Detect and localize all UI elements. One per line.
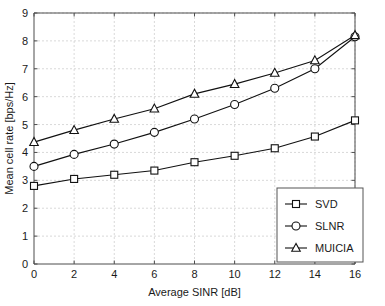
legend-label: SLNR [315,220,344,232]
y-tick-label: 8 [22,35,28,47]
y-tick-label: 0 [22,258,28,270]
data-point-square-icon [31,182,38,189]
data-point-triangle-icon [311,56,320,64]
x-tick-label: 0 [31,268,37,280]
y-axis-title: Mean cell rate [bps/Hz] [3,82,15,195]
data-point-square-icon [352,117,359,124]
data-point-circle-icon [311,65,319,73]
x-tick-label: 12 [269,268,281,280]
data-point-circle-icon [191,115,199,123]
data-point-square-icon [111,171,118,178]
x-tick-label: 2 [71,268,77,280]
x-tick-label: 4 [111,268,117,280]
data-point-circle-icon [150,128,158,136]
legend-label: MUICIA [315,242,354,254]
legend-marker-square-icon [293,201,300,208]
data-point-circle-icon [271,84,279,92]
data-point-square-icon [151,167,158,174]
y-tick-label: 2 [22,202,28,214]
data-point-square-icon [271,145,278,152]
y-tick-label: 3 [22,174,28,186]
data-point-square-icon [311,133,318,140]
y-tick-label: 9 [22,7,28,19]
chart-figure: 0246810121416 0123456789 Average SINR [d… [0,0,385,306]
y-tick-label: 6 [22,91,28,103]
x-tick-label: 6 [151,268,157,280]
data-point-circle-icon [231,100,239,108]
y-tick-label: 5 [22,119,28,131]
x-tick-label: 16 [349,268,361,280]
data-point-square-icon [71,175,78,182]
chart-legend: SVDSLNRMUICIA [277,188,363,262]
series-muicia [30,31,360,146]
line-chart: 0246810121416 0123456789 Average SINR [d… [0,0,385,306]
y-tick-labels: 0123456789 [22,7,28,270]
x-tick-label: 10 [229,268,241,280]
x-axis-title: Average SINR [dB] [148,286,241,298]
y-tick-label: 7 [22,63,28,75]
data-point-circle-icon [70,150,78,158]
y-tick-label: 1 [22,230,28,242]
y-tick-label: 4 [22,146,28,158]
legend-marker-circle-icon [292,222,300,230]
x-tick-labels: 0246810121416 [31,268,361,280]
data-point-circle-icon [30,162,38,170]
data-point-square-icon [231,152,238,159]
legend-label: SVD [315,198,338,210]
x-tick-label: 14 [309,268,321,280]
data-point-square-icon [191,159,198,166]
data-point-circle-icon [110,140,118,148]
x-tick-label: 8 [191,268,197,280]
